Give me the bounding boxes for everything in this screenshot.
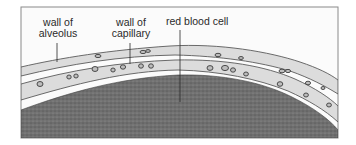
label-capillary-line2: capillary — [108, 28, 154, 39]
label-wall-of-capillary: wall of capillary — [108, 17, 154, 39]
label-red-blood-cell: red blood cell — [166, 16, 228, 27]
label-wall-of-alveolus: wall of alveolus — [36, 17, 80, 39]
label-alveolus-line2: alveolus — [36, 28, 80, 39]
label-rbc-text: red blood cell — [166, 16, 228, 27]
